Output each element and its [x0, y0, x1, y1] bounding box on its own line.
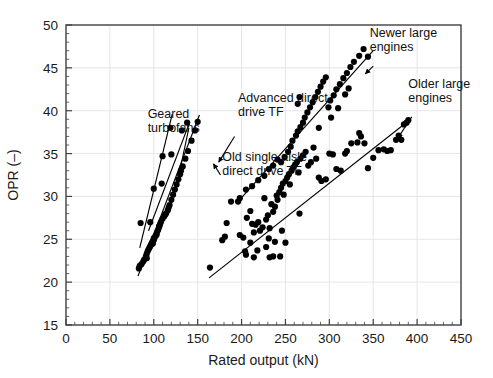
data-point [342, 91, 348, 97]
data-point [263, 244, 269, 250]
data-point [346, 85, 352, 91]
data-point [360, 46, 366, 52]
chart-figure: 0501001502002503003504004501520253035404… [0, 0, 493, 378]
data-point [313, 156, 319, 162]
data-point [159, 153, 165, 159]
data-point [153, 232, 159, 238]
data-point [251, 229, 257, 235]
data-point [337, 81, 343, 87]
data-point [144, 255, 150, 261]
data-point [365, 165, 371, 171]
y-tick-label: 30 [43, 189, 58, 204]
data-point [265, 212, 271, 218]
y-tick-label: 35 [43, 147, 58, 162]
x-tick-label: 150 [186, 331, 209, 346]
x-tick-label: 200 [230, 331, 253, 346]
data-point [207, 264, 213, 270]
data-point [254, 247, 260, 253]
data-point [243, 186, 249, 192]
data-point [335, 105, 341, 111]
data-point [344, 70, 350, 76]
data-point [255, 219, 261, 225]
data-point [289, 138, 295, 144]
data-point [266, 235, 272, 241]
data-point [344, 148, 350, 154]
y-tick-label: 45 [43, 61, 58, 76]
data-point [338, 168, 344, 174]
data-point [272, 204, 278, 210]
annotation-older-large-engines: Older largeengines [398, 77, 470, 138]
data-point [168, 151, 174, 157]
x-tick-label: 450 [450, 331, 473, 346]
data-point [308, 159, 314, 165]
y-tick-label: 25 [43, 232, 58, 247]
data-point [243, 252, 249, 258]
data-point [249, 221, 255, 227]
data-point [316, 125, 322, 131]
data-point [166, 204, 172, 210]
data-point [347, 64, 353, 70]
data-point [240, 234, 246, 240]
x-tick-label: 50 [102, 331, 117, 346]
x-tick-label: 250 [274, 331, 297, 346]
advanced-direct-drive-line [149, 122, 190, 231]
y-tick-label: 50 [43, 18, 58, 33]
data-point [348, 140, 354, 146]
annotation-label: Advanced directdrive TF [238, 91, 328, 119]
data-point [247, 208, 253, 214]
y-axis-title: OPR (–) [5, 149, 21, 200]
data-point [282, 240, 288, 246]
x-tick-label: 350 [362, 331, 385, 346]
data-point [323, 176, 329, 182]
x-axis-title: Rated output (kN) [208, 352, 319, 368]
data-point [323, 74, 329, 80]
data-point [277, 253, 283, 259]
data-point [370, 155, 376, 161]
data-point [365, 54, 371, 60]
x-tick-label: 400 [406, 331, 429, 346]
data-point [274, 197, 280, 203]
data-point [331, 92, 337, 98]
y-tick-label: 40 [43, 104, 58, 119]
data-point [279, 228, 285, 234]
data-point [249, 183, 255, 189]
annotation-arrow [213, 164, 220, 175]
x-tick-label: 100 [143, 331, 166, 346]
data-point [150, 240, 156, 246]
annotation-arrow [365, 66, 373, 74]
data-point [151, 186, 157, 192]
data-point [247, 240, 253, 246]
data-point [222, 234, 228, 240]
data-point [281, 192, 287, 198]
data-point [188, 138, 194, 144]
annotation-label: Old single aisledirect drive TF [222, 150, 307, 178]
data-point [228, 198, 234, 204]
y-tick-label: 20 [43, 275, 58, 290]
data-point [333, 86, 339, 92]
data-point [267, 225, 273, 231]
data-point [272, 239, 278, 245]
data-point [261, 195, 267, 201]
data-point [388, 147, 394, 153]
data-point [288, 144, 294, 150]
data-point [147, 219, 153, 225]
annotations: GearedturbofansAdvanced directdrive TFOl… [148, 26, 471, 178]
data-point [287, 181, 293, 187]
y-tick-label: 15 [43, 318, 58, 333]
data-point [138, 220, 144, 226]
data-point [340, 75, 346, 81]
data-point [310, 144, 316, 150]
data-point [159, 180, 165, 186]
annotation-label: Newer largeengines [370, 26, 437, 54]
data-point [398, 137, 404, 143]
data-point [328, 114, 334, 120]
data-point [375, 147, 381, 153]
data-point [354, 139, 360, 145]
annotation-newer-large-engines: Newer largeengines [365, 26, 437, 74]
data-point [358, 133, 364, 139]
data-point [224, 220, 230, 226]
series-older-large-engines [207, 117, 412, 271]
data-point [251, 254, 257, 260]
annotation-old-single-aisle-direct-drive-tf: Old single aisledirect drive TF [213, 150, 307, 178]
x-tick-label: 300 [318, 331, 341, 346]
